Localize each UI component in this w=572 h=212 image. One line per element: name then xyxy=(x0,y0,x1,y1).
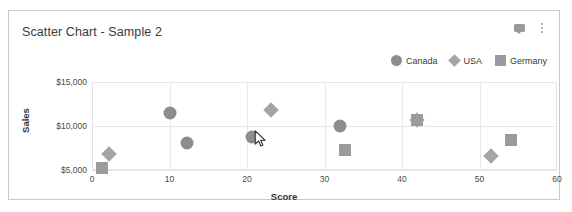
chart-card: Scatter Chart - Sample 2 CanadaUSAGerman… xyxy=(8,10,560,200)
circle-swatch-icon xyxy=(391,55,402,66)
chart-legend: CanadaUSAGermany xyxy=(391,55,547,66)
diamond-swatch-icon xyxy=(449,54,462,67)
card-header-actions xyxy=(512,21,549,35)
x-axis-tick-label: 10 xyxy=(165,174,174,184)
speech-bubble-glyph xyxy=(514,24,525,32)
screenshot-root: Scatter Chart - Sample 2 CanadaUSAGerman… xyxy=(0,0,572,212)
y-axis-tick-label: $5,000 xyxy=(61,165,87,175)
data-point-canada[interactable] xyxy=(163,106,176,119)
data-point-germany[interactable] xyxy=(505,134,517,146)
x-axis-tick-label: 50 xyxy=(475,174,484,184)
legend-item-usa[interactable]: USA xyxy=(450,56,482,66)
x-axis-tick-label: 0 xyxy=(90,174,95,184)
more-options-icon[interactable] xyxy=(535,21,549,35)
mouse-pointer xyxy=(254,130,268,148)
kebab-menu-glyph xyxy=(541,23,543,33)
legend-item-germany[interactable]: Germany xyxy=(495,55,547,66)
gridline-vertical xyxy=(247,82,248,170)
x-axis-tick-label: 20 xyxy=(242,174,251,184)
legend-label: Canada xyxy=(406,56,438,66)
square-swatch-icon xyxy=(495,55,506,66)
legend-label: USA xyxy=(463,56,482,66)
gridline-vertical xyxy=(170,82,171,170)
x-axis-tick-label: 60 xyxy=(552,174,561,184)
x-axis-tick-label: 30 xyxy=(320,174,329,184)
y-axis-tick-label: $15,000 xyxy=(56,77,87,87)
data-point-germany[interactable] xyxy=(96,162,108,174)
y-axis-title: Sales xyxy=(20,101,31,141)
x-axis-tick-label: 40 xyxy=(397,174,406,184)
comment-icon[interactable] xyxy=(512,21,526,35)
gridline-vertical xyxy=(402,82,403,170)
gridline-horizontal xyxy=(92,170,557,171)
legend-label: Germany xyxy=(510,56,547,66)
gridline-vertical xyxy=(480,82,481,170)
gridline-vertical xyxy=(325,82,326,170)
y-axis-ticks: $5,000$10,000$15,000 xyxy=(31,11,87,212)
data-point-canada[interactable] xyxy=(334,120,347,133)
legend-item-canada[interactable]: Canada xyxy=(391,55,438,66)
data-point-canada[interactable] xyxy=(180,137,193,150)
y-axis-tick-label: $10,000 xyxy=(56,121,87,131)
plot-area xyxy=(92,82,557,170)
data-point-germany[interactable] xyxy=(411,114,423,126)
data-point-germany[interactable] xyxy=(339,144,351,156)
x-axis-title: Score xyxy=(9,191,559,202)
